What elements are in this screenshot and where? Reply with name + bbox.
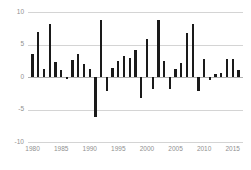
bar [66,77,68,79]
plot-area [28,12,243,142]
y-tick-label: -5 [2,106,24,113]
bar [43,69,45,77]
bar [71,60,73,77]
bar [31,54,33,77]
x-axis-tick-labels: 19801985199019952000200520102015 [28,146,243,160]
bar [129,58,131,77]
x-tick-label: 1980 [25,146,39,153]
bar [226,59,228,77]
bar [209,77,211,80]
bar [174,69,176,77]
y-tick-label: 5 [2,41,24,48]
bar [180,63,182,77]
bar [152,77,154,89]
bar [100,20,102,77]
bar [192,24,194,77]
bar-series [28,12,243,142]
bar [60,70,62,77]
bar [54,62,56,77]
bar [220,73,222,77]
gridline--10 [28,142,243,143]
bar [94,77,96,117]
bar [186,33,188,77]
x-tick-label: 1985 [54,146,68,153]
x-tick-label: 1990 [83,146,97,153]
bar [169,77,171,89]
bar [123,56,125,77]
bar [237,70,239,77]
bar [83,64,85,77]
bar [232,59,234,77]
bar [140,77,142,98]
bar [197,77,199,91]
x-tick-label: 2010 [197,146,211,153]
bar [49,24,51,77]
y-tick-label: -10 [2,139,24,146]
y-tick-label: 10 [2,9,24,16]
bar [77,54,79,77]
x-tick-label: 2015 [225,146,239,153]
bar [37,32,39,78]
bar [214,74,216,77]
bar [163,61,165,77]
bar [157,20,159,77]
bar [134,50,136,77]
x-tick-label: 2005 [168,146,182,153]
y-tick-label: 0 [2,74,24,81]
x-tick-label: 1995 [111,146,125,153]
bar [89,69,91,77]
bar [111,68,113,77]
bar [117,61,119,77]
x-tick-label: 2000 [140,146,154,153]
bar [106,77,108,91]
bar [146,39,148,77]
bar-chart: 1050-5-10 198019851990199520002005201020… [0,0,251,170]
bar [203,59,205,77]
